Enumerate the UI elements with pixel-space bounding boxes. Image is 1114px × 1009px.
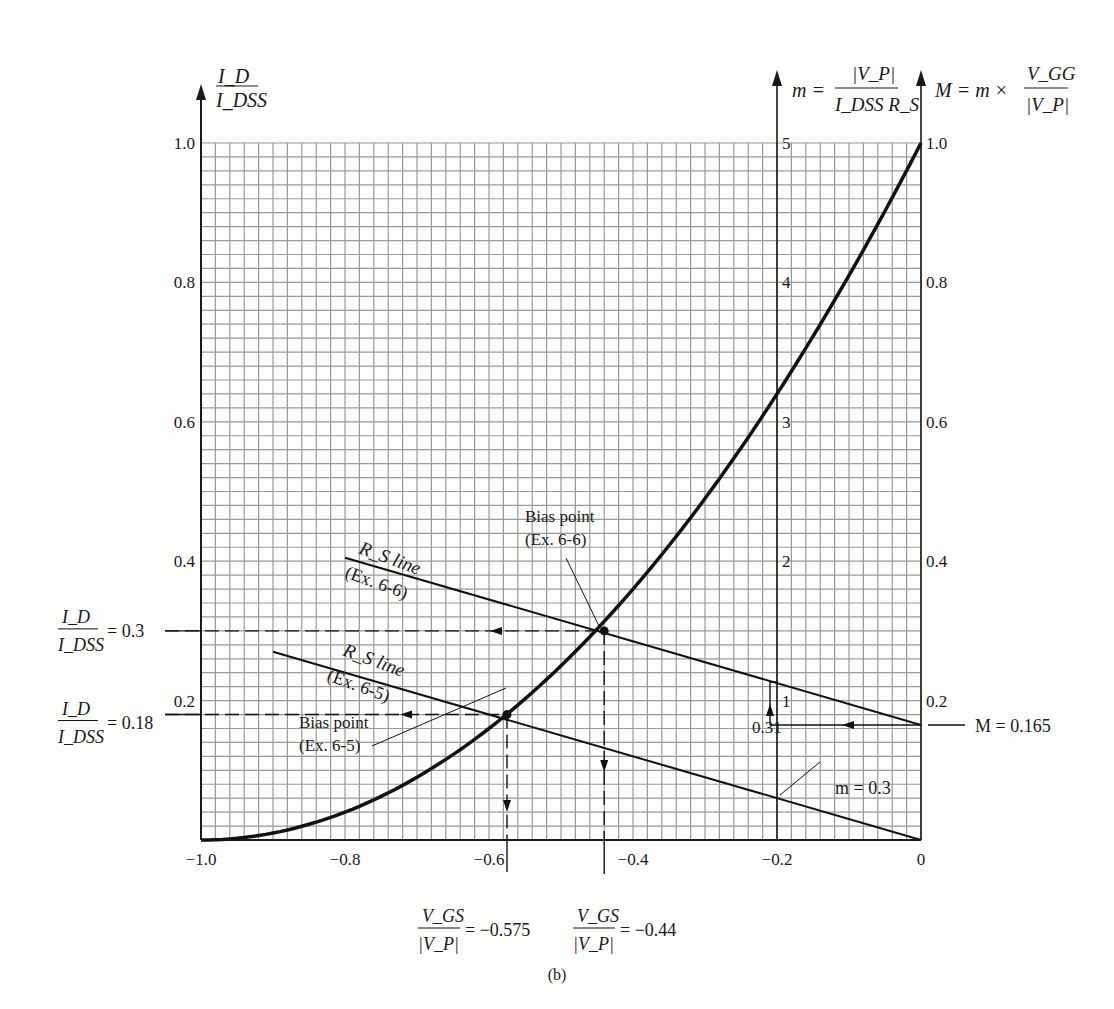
left-y-tick-label: 0.2 <box>174 692 195 711</box>
id-0-18-label-den: I_DSS <box>57 727 104 747</box>
x-tick-label: −0.4 <box>618 850 649 869</box>
right-y-tick-label: 0.2 <box>926 692 947 711</box>
vgs-0-575-label-den: |V_P| <box>418 934 459 954</box>
m-value-label: m = 0.3 <box>835 778 891 798</box>
m-axis-tick-label: 3 <box>782 413 791 432</box>
m-axis-tick-label: 4 <box>782 273 791 292</box>
x-tick-label: 0 <box>917 850 926 869</box>
left-y-axis-arrow-icon <box>196 84 206 100</box>
vgs-0-575-label-num: V_GS <box>422 906 464 926</box>
id-0-3-value: = 0.3 <box>107 621 144 641</box>
left-y-tick-label: 0.4 <box>174 552 196 571</box>
m-031-label: 0.31 <box>752 718 782 737</box>
m-axis-title: m = |V_P| I_DSS R_S <box>792 63 919 115</box>
bias-point-ex-6-5 <box>503 710 512 719</box>
m-axis-tick-label: 5 <box>782 134 791 153</box>
right-y-axis-arrow-icon <box>916 70 926 86</box>
m-axis-tick-label: 1 <box>782 692 791 711</box>
M-value-label: M = 0.165 <box>975 716 1051 736</box>
x-tick-label: −0.2 <box>762 850 793 869</box>
right-axis-title-num: V_GG <box>1027 63 1076 84</box>
id-0-18-value: = 0.18 <box>107 713 153 733</box>
jfet-bias-chart: R_S line(Ex. 6-6)R_S line(Ex. 6-5)Bias p… <box>0 0 1114 1009</box>
bias-66-label: Bias point <box>525 507 595 526</box>
bias-point-ex-6-6 <box>600 626 609 635</box>
bias-66-sublabel: (Ex. 6-6) <box>525 530 586 549</box>
right-y-tick-label: 0.6 <box>926 413 947 432</box>
right-y-tick-label: 0.4 <box>926 552 948 571</box>
left-axis-title-num: I_D <box>217 65 250 87</box>
left-axis-title-den: I_DSS <box>215 89 267 111</box>
x-tick-label: −0.6 <box>474 850 505 869</box>
left-y-tick-label: 1.0 <box>174 134 195 153</box>
x-tick-label: −0.8 <box>330 850 361 869</box>
m-axis-tick-label: 2 <box>782 552 791 571</box>
id-0-3-label-num: I_D <box>61 607 90 627</box>
id-0-18-label-num: I_D <box>61 699 90 719</box>
bias-65-sublabel: (Ex. 6-5) <box>299 736 360 755</box>
m-axis-title-lhs: m = <box>792 79 825 101</box>
right-y-tick-label: 0.8 <box>926 273 947 292</box>
x-tick-label: −1.0 <box>186 850 217 869</box>
right-axis-title: M = m × V_GG |V_P| <box>934 63 1076 115</box>
right-y-tick-label: 1.0 <box>926 134 947 153</box>
m-axis-arrow-icon <box>772 70 782 86</box>
right-axis-title-den: |V_P| <box>1026 94 1069 115</box>
left-axis-title: I_D I_DSS <box>215 65 267 111</box>
vgs-0-575-value: = −0.575 <box>465 920 530 940</box>
vgs-0-44-value: = −0.44 <box>620 920 676 940</box>
vgs-0-44-label-den: |V_P| <box>573 934 614 954</box>
annotations: R_S line(Ex. 6-6)R_S line(Ex. 6-5)Bias p… <box>57 507 1051 954</box>
m-axis-title-den: I_DSS R_S <box>834 94 919 115</box>
m-axis-title-num: |V_P| <box>852 63 895 84</box>
id-0-3-label-den: I_DSS <box>57 635 104 655</box>
figure-label: (b) <box>548 966 567 984</box>
right-axis-title-lhs: M = m × <box>934 79 1008 101</box>
left-y-tick-label: 0.8 <box>174 273 195 292</box>
left-y-tick-label: 0.6 <box>174 413 195 432</box>
vgs-0-44-label-num: V_GS <box>577 906 619 926</box>
bias-65-label: Bias point <box>299 713 369 732</box>
